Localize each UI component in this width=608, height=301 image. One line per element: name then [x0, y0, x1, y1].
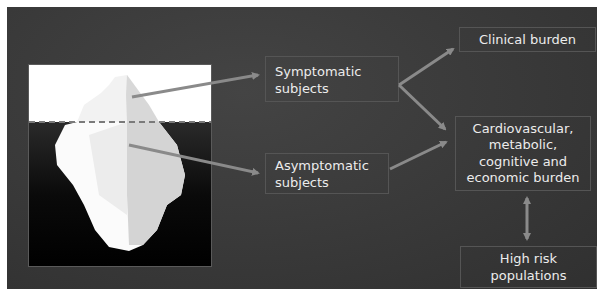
node-symptomatic-subjects: Symptomatic subjects	[265, 56, 399, 102]
node-clinical-burden: Clinical burden	[459, 27, 596, 52]
asymptomatic-label-line1: Asymptomatic	[275, 157, 382, 174]
asymptomatic-label-line2: subjects	[275, 174, 382, 191]
node-high-risk-populations: High risk populations	[460, 246, 597, 288]
iceberg-illustration	[29, 65, 212, 267]
iceberg-image	[28, 64, 212, 267]
cardio-line4: economic burden	[467, 170, 580, 187]
cardio-line1: Cardiovascular,	[473, 121, 574, 138]
cardio-line3: cognitive and	[479, 154, 567, 171]
node-asymptomatic-subjects: Asymptomatic subjects	[265, 153, 389, 194]
highrisk-line2: populations	[491, 267, 567, 284]
clinical-burden-label: Clinical burden	[479, 31, 576, 48]
node-cardiovascular-burden: Cardiovascular, metabolic, cognitive and…	[455, 116, 591, 191]
highrisk-line1: High risk	[500, 250, 557, 267]
symptomatic-label-line2: subjects	[275, 80, 392, 97]
symptomatic-label-line1: Symptomatic	[275, 63, 392, 80]
cardio-line2: metabolic,	[489, 137, 557, 154]
